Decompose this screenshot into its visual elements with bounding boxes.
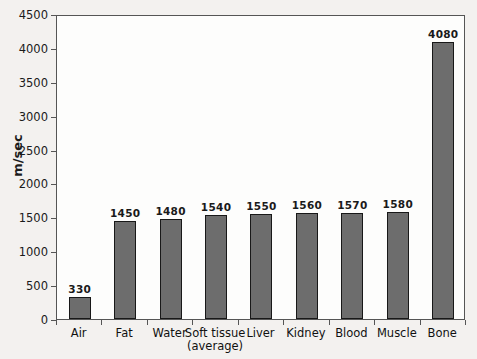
bar-group: 1450 <box>102 14 147 319</box>
y-tick-label: 3500 <box>0 76 48 90</box>
bar[interactable] <box>341 213 363 319</box>
bar[interactable] <box>432 42 454 319</box>
bar[interactable] <box>160 219 182 319</box>
bar-group: 330 <box>57 14 102 319</box>
bar[interactable] <box>387 212 409 319</box>
y-tick-label: 500 <box>0 279 48 293</box>
bar-group: 1570 <box>330 14 375 319</box>
y-tick-label: 1000 <box>0 245 48 259</box>
plot-area: 33014501480154015501560157015804080 <box>56 15 465 320</box>
x-tick-mark <box>101 320 102 325</box>
bar[interactable] <box>296 213 318 319</box>
bar-value-label: 1450 <box>110 207 140 219</box>
bar-value-label: 1570 <box>337 199 367 211</box>
bar-value-label: 1480 <box>155 205 185 217</box>
bar[interactable] <box>69 297 91 319</box>
y-tick-label: 1500 <box>0 211 48 225</box>
bar[interactable] <box>250 214 272 319</box>
bar-group: 1560 <box>284 14 329 319</box>
bar-value-label: 1560 <box>292 199 322 211</box>
x-tick-mark <box>56 320 57 325</box>
bar-group: 1550 <box>239 14 284 319</box>
bar-value-label: 330 <box>68 283 91 295</box>
bar-value-label: 4080 <box>428 28 458 40</box>
x-tick-mark <box>283 320 284 325</box>
bar-group: 4080 <box>421 14 466 319</box>
y-tick-label: 4500 <box>0 8 48 22</box>
x-tick-mark <box>329 320 330 325</box>
y-tick-label: 2000 <box>0 177 48 191</box>
bar-group: 1580 <box>375 14 420 319</box>
bar[interactable] <box>205 215 227 319</box>
bar-value-label: 1550 <box>246 200 276 212</box>
x-tick-mark <box>374 320 375 325</box>
x-tick-label: Bone <box>397 327 477 340</box>
y-tick-label: 0 <box>0 313 48 327</box>
y-tick-label: 2500 <box>0 144 48 158</box>
bar-value-label: 1580 <box>383 198 413 210</box>
x-tick-mark <box>192 320 193 325</box>
y-tick-label: 3000 <box>0 110 48 124</box>
x-tick-mark <box>465 320 466 325</box>
bar-group: 1480 <box>148 14 193 319</box>
bar-group: 1540 <box>193 14 238 319</box>
speed-of-sound-bar-chart: m/sec 0500100015002000250030003500400045… <box>0 0 477 359</box>
bar-value-label: 1540 <box>201 201 231 213</box>
x-tick-mark <box>147 320 148 325</box>
x-tick-mark <box>420 320 421 325</box>
bar[interactable] <box>114 221 136 319</box>
y-tick-label: 4000 <box>0 42 48 56</box>
x-tick-mark <box>238 320 239 325</box>
